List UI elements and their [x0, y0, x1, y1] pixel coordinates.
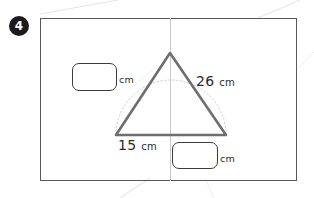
- worksheet-page: 4 cm cm 26 cm 15 cm: [0, 0, 314, 198]
- answer-box-left[interactable]: [72, 63, 117, 91]
- dimension-unit-hypotenuse: cm: [219, 77, 235, 88]
- dimension-label-base: 15 cm: [118, 137, 157, 153]
- dimension-unit-base: cm: [141, 141, 157, 152]
- question-number-badge: 4: [9, 16, 29, 36]
- problem-panel: [40, 18, 297, 181]
- dimension-label-hypotenuse: 26 cm: [196, 73, 235, 89]
- unit-label-left: cm: [119, 74, 134, 85]
- answer-box-bottom[interactable]: [172, 142, 218, 169]
- unit-label-bottom: cm: [220, 153, 235, 164]
- page-fold-line: [170, 18, 171, 181]
- dimension-value-hypotenuse: 26: [196, 73, 215, 89]
- dimension-value-base: 15: [118, 137, 137, 153]
